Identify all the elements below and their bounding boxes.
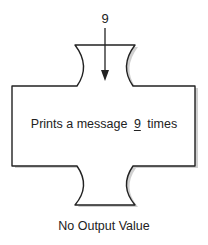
input-value-label: 9 — [98, 11, 112, 26]
function-description: Prints a message 9 times — [0, 117, 208, 131]
description-suffix: times — [147, 117, 177, 131]
parameter-value: 9 — [131, 117, 144, 131]
output-label: No Output Value — [0, 219, 208, 233]
description-prefix: Prints a message — [31, 117, 128, 131]
